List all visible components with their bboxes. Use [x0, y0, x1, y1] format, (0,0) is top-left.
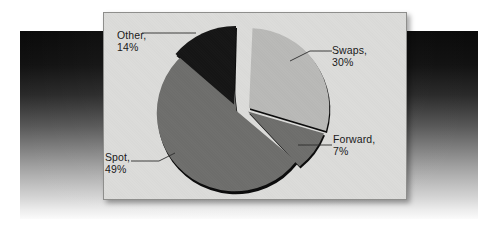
figure-scene: Other, 14% Swaps, 30% Forward, 7% Spot, …: [0, 0, 497, 234]
slice-label-swaps-value: 30%: [332, 56, 367, 68]
slice-label-spot: Spot, 49%: [105, 151, 130, 175]
chart-panel: Other, 14% Swaps, 30% Forward, 7% Spot, …: [103, 12, 407, 200]
slice-label-spot-value: 49%: [105, 163, 130, 175]
slice-label-swaps-name: Swaps,: [332, 44, 367, 56]
slice-label-other-name: Other,: [117, 29, 146, 41]
slice-label-forward-value: 7%: [333, 145, 375, 157]
slice-label-other-value: 14%: [117, 41, 146, 53]
slice-label-other: Other, 14%: [117, 29, 146, 53]
pie-chart: [104, 13, 406, 199]
slice-label-forward: Forward, 7%: [333, 133, 375, 157]
slice-label-forward-name: Forward,: [333, 133, 375, 145]
slice-label-spot-name: Spot,: [105, 151, 130, 163]
slice-label-swaps: Swaps, 30%: [332, 44, 367, 68]
